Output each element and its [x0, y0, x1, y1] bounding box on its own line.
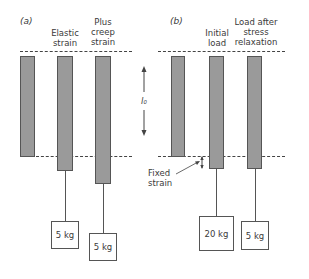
- unloaded-specimen-b: [171, 56, 185, 157]
- wire: [216, 169, 217, 216]
- weight-20kg: 20 kg: [199, 216, 234, 251]
- length-label: l₀: [137, 96, 151, 106]
- stress-relaxation-title: Load after stress relaxation: [230, 17, 282, 47]
- weight-5kg-b: 5 kg: [241, 221, 269, 250]
- wire: [255, 169, 256, 221]
- relaxed-load-specimen: [247, 56, 262, 169]
- top-reference-line-b: [158, 51, 285, 52]
- panel-b-label: (b): [170, 16, 183, 26]
- initial-load-specimen: [209, 56, 224, 169]
- fixed-strain-label: Fixed strain: [148, 168, 178, 188]
